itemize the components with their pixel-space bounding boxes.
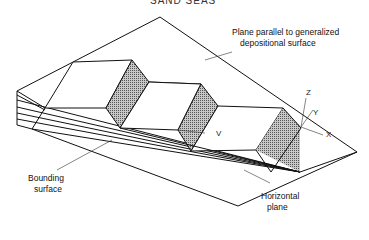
label-bounding-line1: Bounding [28, 173, 64, 183]
label-horizontal-line1: Horizontal [261, 191, 299, 201]
axis-z-label: Z [306, 88, 311, 97]
axis-v-label: V [216, 129, 221, 138]
label-bounding-line2: surface [34, 184, 62, 194]
label-plane-parallel-line1: Plane parallel to generalized [232, 27, 339, 37]
axis-y-label: Y [313, 108, 318, 117]
label-horizontal-line2: plane [267, 202, 288, 212]
axis-x-label: X [326, 130, 331, 139]
label-plane-parallel-line2: depositional surface [240, 38, 316, 48]
